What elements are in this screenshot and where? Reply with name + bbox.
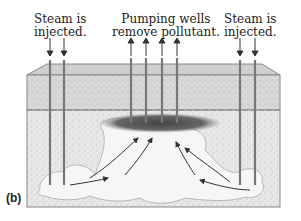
label-mid-line2: remove pollutant. bbox=[112, 26, 220, 39]
label-pumping-wells: Pumping wells remove pollutant. bbox=[112, 13, 220, 39]
extraction-arrows bbox=[128, 38, 180, 56]
label-right-line2: injected. bbox=[224, 26, 277, 39]
label-left-injection: Steam is injected. bbox=[34, 13, 87, 39]
label-left-line2: injected. bbox=[34, 26, 87, 39]
pollutant-plume bbox=[98, 113, 222, 133]
label-right-injection: Steam is injected. bbox=[224, 13, 277, 39]
panel-label: (b) bbox=[6, 191, 21, 205]
injection-arrows bbox=[47, 38, 258, 56]
